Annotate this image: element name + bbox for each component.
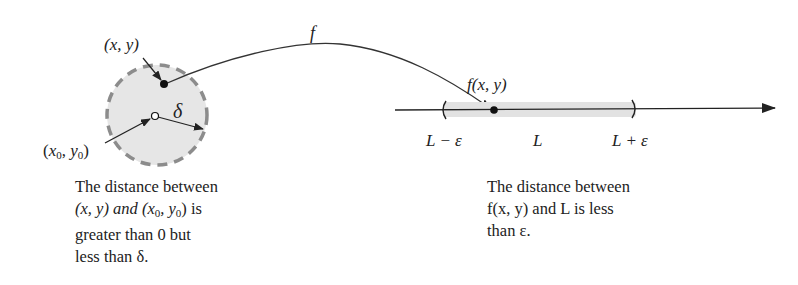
subscript-zero: 0 <box>78 149 84 161</box>
center-y-symbol: y <box>70 141 78 160</box>
left-caption: The distance between (x, y) and (x0, y0)… <box>75 176 218 268</box>
delta-label: δ <box>173 101 182 121</box>
center-L-label: L <box>533 132 542 149</box>
point-xy-dot <box>160 80 168 88</box>
right-caption-line-1: The distance between <box>487 176 630 198</box>
left-caption-line-2: (x, y) and (x0, y0) is <box>75 198 218 224</box>
mapping-curve-f <box>165 43 490 108</box>
right-caption: The distance between f(x, y) and L is le… <box>487 176 630 242</box>
caption-fragment: , y <box>160 199 176 218</box>
caption-fragment: (x, y) and (x <box>75 199 155 218</box>
left-endpoint-label: L − ε <box>426 132 462 149</box>
left-caption-line-3: greater than 0 but <box>75 224 218 246</box>
right-caption-line-3: than ε. <box>487 220 630 242</box>
subscript-zero: 0 <box>56 149 62 161</box>
left-caption-line-1: The distance between <box>75 176 218 198</box>
point-xy-label: (x, y) <box>104 36 139 53</box>
left-caption-line-4: less than δ. <box>75 246 218 268</box>
image-point-dot <box>490 106 498 114</box>
center-point-label: (x0, y0) <box>43 142 89 161</box>
caption-fragment: ) is <box>181 199 202 218</box>
right-endpoint-label: L + ε <box>612 132 648 149</box>
mapping-label-f: f <box>310 24 315 42</box>
right-caption-line-2: f(x, y) and L is less <box>487 198 630 220</box>
center-point-open-dot <box>152 113 159 120</box>
image-point-label: f(x, y) <box>467 76 507 93</box>
